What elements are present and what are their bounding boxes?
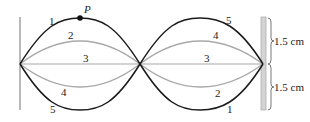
label-right-5: 5: [226, 14, 232, 26]
label-left-1: 1: [49, 15, 55, 27]
standing-wave-diagram: P 1 2 3 4 5 5 4 3 2 1 1.5 cm 1.5 cm: [0, 0, 310, 122]
label-left-3: 3: [83, 52, 89, 64]
label-right-2: 2: [215, 87, 221, 99]
label-right-4: 4: [213, 29, 219, 41]
label-left-2: 2: [68, 29, 74, 41]
lower-dimension-label: 1.5 cm: [274, 81, 304, 93]
point-p: [77, 15, 83, 21]
label-left-5: 5: [50, 103, 56, 115]
label-right-1: 1: [227, 103, 233, 115]
label-left-4: 4: [61, 86, 67, 98]
upper-dimension-label: 1.5 cm: [274, 35, 304, 47]
label-right-3: 3: [204, 52, 210, 64]
wave-figure: P 1 2 3 4 5 5 4 3 2 1 1.5 cm 1.5 cm: [0, 0, 310, 122]
point-p-label: P: [83, 3, 91, 15]
